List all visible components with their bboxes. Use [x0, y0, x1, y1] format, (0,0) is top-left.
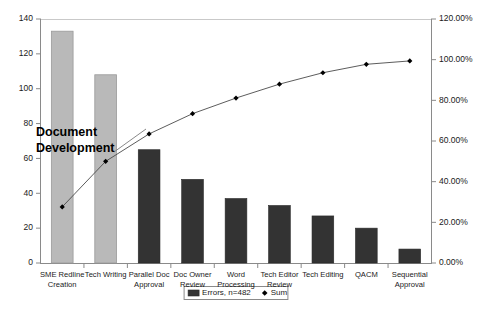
y-tick-label-left: 40 — [24, 188, 34, 198]
x-tick-label: Parallel Doc — [129, 270, 170, 279]
bar-8 — [399, 249, 421, 263]
x-tick-label: Tech Editor — [260, 270, 298, 279]
bar-3 — [182, 179, 204, 263]
x-tick-label: Review — [267, 280, 292, 289]
x-tick-label: Creation — [48, 280, 77, 289]
annotation-line: Document — [36, 125, 98, 139]
x-tick-label: Processing — [217, 280, 255, 289]
x-tick-label: QACM — [355, 270, 378, 279]
x-tick-label: Sequential — [392, 270, 428, 279]
bar-4 — [225, 199, 247, 263]
x-tick-label: SME Redline — [40, 270, 84, 279]
y-tick-label-left: 80 — [24, 118, 34, 128]
x-tick-label: Approval — [395, 280, 425, 289]
x-tick-label: Tech Writing — [85, 270, 127, 279]
y-tick-label-right: 100.00% — [439, 54, 473, 64]
pareto-chart: 020406080100120140 0.00%20.00%40.00%60.0… — [0, 0, 485, 312]
chart-canvas: 020406080100120140 0.00%20.00%40.00%60.0… — [0, 0, 485, 312]
y-tick-label-right: 20.00% — [439, 217, 468, 227]
x-tick-label: Approval — [134, 280, 164, 289]
y-tick-label-right: 0.00% — [439, 257, 464, 267]
y-tick-label-left: 140 — [19, 13, 33, 23]
y-tick-label-left: 60 — [24, 153, 34, 163]
y-tick-label-left: 0 — [28, 257, 33, 267]
bar-2 — [138, 150, 160, 263]
x-tick-label: Tech Editing — [302, 270, 343, 279]
y-tick-label-left: 100 — [19, 83, 33, 93]
bar-6 — [312, 216, 334, 263]
y-tick-label-right: 60.00% — [439, 135, 468, 145]
legend-label-errors: Errors, n=482 — [202, 288, 251, 297]
x-tick-label: Doc Owner — [174, 270, 212, 279]
y-tick-label-right: 120.00% — [439, 13, 473, 23]
legend-label-sum: Sum — [271, 288, 288, 297]
legend-swatch-errors — [188, 290, 199, 296]
bar-5 — [269, 205, 291, 263]
y-tick-label-right: 80.00% — [439, 95, 468, 105]
y-tick-label-left: 120 — [19, 48, 33, 58]
bar-7 — [355, 228, 377, 263]
y-tick-label-right: 40.00% — [439, 176, 468, 186]
y-tick-label-left: 20 — [24, 222, 34, 232]
x-tick-label: Review — [180, 280, 205, 289]
x-tick-label: Word — [227, 270, 245, 279]
annotation-line: Development — [36, 141, 115, 155]
